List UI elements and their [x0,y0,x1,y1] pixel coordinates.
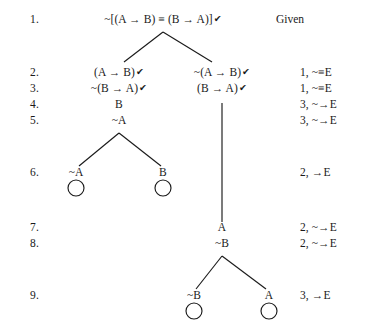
tree-edge [79,133,119,166]
open-branch-circle [186,303,202,319]
justification-label: 1, ~≡E [300,82,332,94]
formula-node: ~B [187,289,201,301]
tree-edge [222,256,266,289]
line-number: 2. [30,66,39,78]
formula-text: B [159,166,167,178]
formula-text: (A → B) [94,66,135,78]
checkmark-icon: ✔ [136,66,144,77]
line-number: 3. [30,82,39,94]
justification-label: 2, ~→E [300,237,337,249]
formula-node: ~A [69,166,84,178]
line-number: 1. [30,13,39,25]
formula-node: (A → B)✔ [94,66,144,78]
checkmark-icon: ✔ [214,13,222,24]
formula-node: B [159,166,167,178]
checkmark-icon: ✔ [139,82,147,93]
given-annotation: Given [276,13,304,25]
formula-node: ~(A → B)✔ [194,66,250,78]
justification-label: 1, ~≡E [300,66,332,78]
justification-label: 3, ~→E [300,98,337,110]
line-number: 7. [30,221,39,233]
truth-tree-proof-diagram: 1.2.3.4.5.6.7.8.9. ~[(A → B) ≡ (B → A)]✔… [0,0,373,334]
line-number: 5. [30,114,39,126]
open-branch-circle [68,180,84,196]
formula-text: A [218,221,226,233]
formula-text: ~(B → A) [91,82,138,94]
open-branch-circle [261,303,277,319]
formula-text: A [265,289,273,301]
formula-node: A [218,221,226,233]
line-number: 4. [30,98,39,110]
tree-edge [119,133,161,166]
tree-edge [163,32,212,62]
formula-text: ~B [187,289,201,301]
justification-label: 3, ~→E [300,114,337,126]
tree-edge [196,256,222,289]
formula-node: ~[(A → B) ≡ (B → A)]✔ [104,13,222,25]
formula-node: ~(B → A)✔ [91,82,147,94]
formula-text: ~A [69,166,84,178]
formula-text: B [115,98,123,110]
open-branch-circle [155,180,171,196]
formula-node: A [265,289,273,301]
line-number: 9. [30,289,39,301]
formula-node: B [115,98,123,110]
formula-text: ~(A → B) [194,66,241,78]
justification-label: 3, →E [300,289,331,301]
justification-label: 2, →E [300,166,331,178]
justification-label: 2, ~→E [300,221,337,233]
formula-text: ~[(A → B) ≡ (B → A)] [104,13,213,25]
checkmark-icon: ✔ [242,66,250,77]
formula-node: ~A [112,114,127,126]
formula-text: ~A [112,114,127,126]
tree-edge [124,32,163,62]
formula-node: (B → A)✔ [197,82,247,94]
checkmark-icon: ✔ [239,82,247,93]
formula-text: (B → A) [197,82,238,94]
formula-text: ~B [215,237,229,249]
line-number: 8. [30,237,39,249]
formula-node: ~B [215,237,229,249]
line-number: 6. [30,166,39,178]
